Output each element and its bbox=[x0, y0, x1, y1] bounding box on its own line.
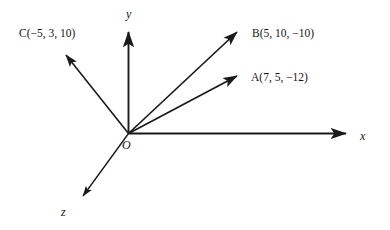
vector-diagram-figure: y x z O C(−5, 3, 10) B(5, 10, −10) A(7, … bbox=[0, 0, 390, 230]
vector-c-line bbox=[66, 55, 129, 134]
point-label-c: C(−5, 3, 10) bbox=[19, 28, 75, 40]
y-axis-label: y bbox=[126, 8, 131, 20]
vector-a-line bbox=[129, 76, 238, 134]
origin-label: O bbox=[122, 139, 131, 151]
point-label-a: A(7, 5, −12) bbox=[251, 72, 308, 84]
x-axis-label: x bbox=[360, 130, 365, 142]
vector-b-line bbox=[129, 32, 238, 134]
z-axis-label: z bbox=[61, 206, 66, 218]
point-label-b: B(5, 10, −10) bbox=[252, 28, 314, 40]
